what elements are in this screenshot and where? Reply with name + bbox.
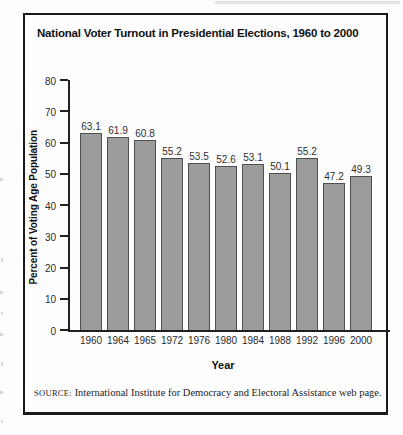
bar: 49.3: [350, 176, 372, 330]
bar: 53.1: [242, 164, 264, 330]
bar-value-label: 49.3: [351, 164, 370, 175]
y-tick-mark: [60, 204, 68, 206]
bar: 55.2: [161, 158, 183, 331]
y-tick-label: 70: [30, 106, 56, 117]
x-tick: 2000: [350, 335, 372, 349]
x-axis-title: Year: [68, 359, 378, 371]
x-tick-label: 1980: [215, 335, 237, 346]
y-tick-mark: [60, 79, 68, 81]
x-tick-label: 1976: [188, 335, 210, 346]
x-tick: 1988: [269, 335, 291, 349]
y-tick-mark: [60, 329, 68, 331]
y-tick-label: 40: [30, 200, 56, 211]
x-tick-label: 1984: [242, 335, 264, 346]
bar-value-label: 55.2: [297, 146, 316, 157]
bar: 50.1: [269, 173, 291, 330]
x-tick: 1996: [323, 335, 345, 349]
bar-value-label: 61.9: [108, 125, 127, 136]
y-tick-label: 50: [30, 169, 56, 180]
bar-value-label: 53.1: [243, 152, 262, 163]
x-axis-labels: 1960196419651972197619801984198819921996…: [68, 335, 378, 349]
x-tick: 1960: [80, 335, 102, 349]
y-tick-label: 0: [30, 325, 56, 336]
x-tick-label: 1960: [80, 335, 102, 346]
y-tick-mark: [60, 235, 68, 237]
bar-value-label: 60.8: [135, 128, 154, 139]
y-tick-mark: [60, 173, 68, 175]
x-tick: 1972: [161, 335, 183, 349]
x-tick: 1980: [215, 335, 237, 349]
y-tick-mark: [60, 267, 68, 269]
x-tick-label: 1964: [107, 335, 129, 346]
x-tick: 1965: [134, 335, 156, 349]
bar-value-label: 47.2: [324, 171, 343, 182]
bar: 61.9: [107, 137, 129, 330]
bar-value-label: 63.1: [81, 121, 100, 132]
chart-title: National Voter Turnout in Presidential E…: [37, 27, 378, 39]
y-axis: 01020304050607080: [25, 80, 68, 330]
y-tick-label: 80: [30, 75, 56, 86]
x-tick-label: 1996: [323, 335, 345, 346]
y-tick-label: 60: [30, 138, 56, 149]
x-tick: 1964: [107, 335, 129, 349]
x-tick-label: 1965: [134, 335, 156, 346]
y-tick-label: 30: [30, 231, 56, 242]
bar: 52.6: [215, 166, 237, 330]
bar: 55.2: [296, 158, 318, 331]
bar-value-label: 52.6: [216, 154, 235, 165]
source-text: International Institute for Democracy an…: [75, 387, 382, 398]
y-tick-mark: [60, 110, 68, 112]
bar: 60.8: [134, 140, 156, 330]
x-tick: 1984: [242, 335, 264, 349]
source-line: SOURCE: International Institute for Demo…: [34, 387, 378, 398]
bar: 63.1: [80, 133, 102, 330]
plot-area: 63.161.960.855.253.552.653.150.155.247.2…: [68, 80, 390, 332]
x-tick-label: 1992: [296, 335, 318, 346]
x-tick-label: 1988: [269, 335, 291, 346]
y-tick-label: 20: [30, 263, 56, 274]
scan-smudge: [215, 1, 400, 4]
y-tick-mark: [60, 298, 68, 300]
x-tick-label: 2000: [350, 335, 372, 346]
y-tick-mark: [60, 142, 68, 144]
bar-value-label: 55.2: [162, 146, 181, 157]
bar-value-label: 53.5: [189, 151, 208, 162]
bar-value-label: 50.1: [270, 161, 289, 172]
x-tick: 1992: [296, 335, 318, 349]
x-tick-label: 1972: [161, 335, 183, 346]
y-tick-label: 10: [30, 294, 56, 305]
source-label: SOURCE:: [34, 388, 72, 398]
x-tick: 1976: [188, 335, 210, 349]
figure-frame: National Voter Turnout in Presidential E…: [23, 13, 388, 415]
bar: 53.5: [188, 163, 210, 330]
bar: 47.2: [323, 183, 345, 331]
